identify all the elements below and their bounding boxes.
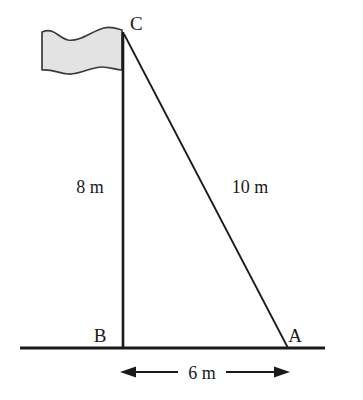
measurement-label-base: 6 m: [188, 363, 216, 383]
measurement-label-pole-height: 8 m: [76, 177, 104, 197]
measurement-label-hypotenuse: 10 m: [232, 177, 269, 197]
flag-banner: [42, 27, 122, 74]
dimension-arrowhead-left: [120, 367, 136, 378]
diagram-canvas: C B A 8 m 10 m 6 m: [0, 0, 363, 400]
flagpole-diagram: C B A 8 m 10 m 6 m: [0, 0, 363, 400]
vertex-label-a: A: [288, 325, 302, 346]
vertex-label-b: B: [94, 325, 107, 346]
vertex-label-c: C: [130, 13, 143, 34]
dimension-arrowhead-right: [274, 367, 290, 378]
